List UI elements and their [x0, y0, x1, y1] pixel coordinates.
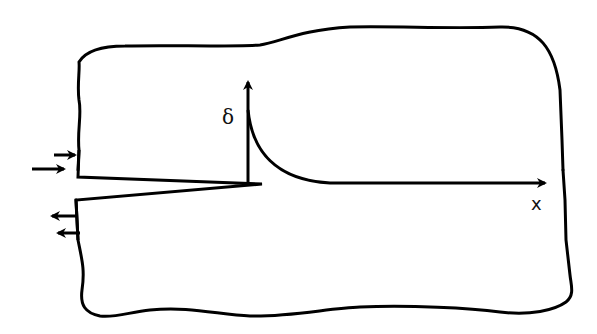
x-axis: [248, 110, 545, 183]
crack: [76, 150, 262, 240]
crack-diagram: δ x: [0, 0, 597, 334]
x-label: x: [531, 193, 542, 214]
plate-outline-lower: [76, 170, 572, 316]
delta-label: δ: [222, 105, 234, 129]
plate-outline-upper: [78, 27, 563, 170]
